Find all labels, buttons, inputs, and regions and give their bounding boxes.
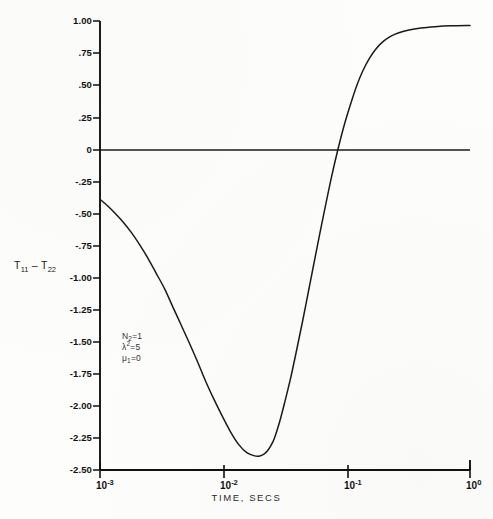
annotation-line-lambda: λ2=5 <box>122 342 142 353</box>
y-axis-title: T11 – T22 <box>14 259 56 271</box>
x-axis-title: TIME, SECS <box>0 492 493 503</box>
y-axis-ticks <box>93 21 100 470</box>
annotation-value-lambda: =5 <box>130 342 140 352</box>
y-tick-label--2.00: -2.00 <box>44 400 92 411</box>
x-tick-mantissa: 10 <box>220 480 231 491</box>
y-tick-label--1.75: -1.75 <box>44 368 92 379</box>
y-tick-label-0: 0 <box>48 144 92 155</box>
y-axis-title-sub-22: 22 <box>48 265 56 274</box>
y-axis-title-dash: – T <box>29 259 48 271</box>
y-tick-label-0.25: .25 <box>48 112 92 123</box>
x-tick-exponent: -2 <box>231 478 238 487</box>
y-tick-label--2.50: -2.50 <box>44 464 92 475</box>
y-tick-label--1.25: -1.25 <box>44 304 92 315</box>
annotation-line-mu: μ1=0 <box>122 353 142 364</box>
x-tick-label-1e-1: 10-1 <box>344 480 362 491</box>
x-tick-mantissa: 10 <box>466 480 477 491</box>
x-tick-exponent: -1 <box>355 478 362 487</box>
y-tick-label-0.75: .75 <box>48 47 92 58</box>
annotation-sub-1: 1 <box>127 357 131 364</box>
y-tick-label--0.75: -.75 <box>44 240 92 251</box>
annotation-value-n2: =1 <box>132 331 142 341</box>
y-axis-title-t1: T <box>14 259 21 271</box>
x-tick-mantissa: 10 <box>96 480 107 491</box>
annotation-value-mu: =0 <box>131 353 141 363</box>
x-tick-mantissa: 10 <box>344 480 355 491</box>
data-curve-t11-minus-t22 <box>100 25 470 456</box>
x-tick-label-1e0: 100 <box>466 480 481 491</box>
x-tick-label-1e-3: 10-3 <box>96 480 114 491</box>
y-tick-label--0.25: -.25 <box>44 176 92 187</box>
x-tick-exponent: 0 <box>477 478 481 487</box>
y-axis-title-sub-11: 11 <box>21 265 29 274</box>
y-tick-label-0.50: .50 <box>48 79 92 90</box>
annotation-sub-2: 2 <box>128 335 132 342</box>
y-tick-label--2.25: -2.25 <box>44 432 92 443</box>
y-tick-label--0.50: -.50 <box>44 208 92 219</box>
figure-container: 1.00 .75 .50 .25 0 -.25 -.50 -.75 -1.00 … <box>0 0 493 519</box>
x-tick-label-1e-2: 10-2 <box>220 480 238 491</box>
plot-parameter-annotation: N2=1 λ2=5 μ1=0 <box>122 331 142 364</box>
x-tick-exponent: -3 <box>107 478 114 487</box>
y-tick-label--1.50: -1.50 <box>44 336 92 347</box>
y-tick-label-1.00: 1.00 <box>48 15 92 26</box>
